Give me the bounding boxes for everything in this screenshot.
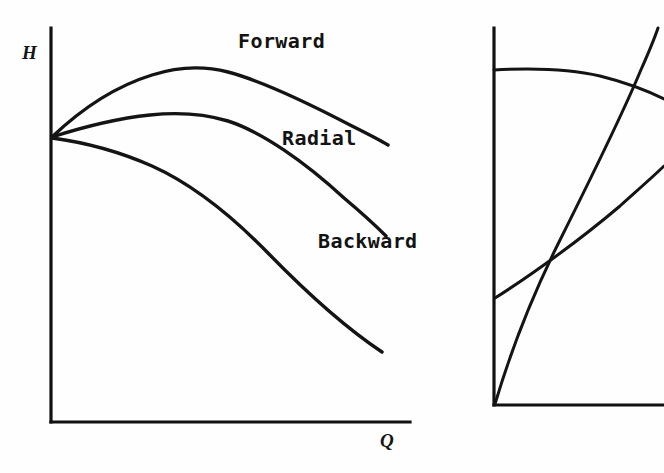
right-panel bbox=[494, 28, 664, 405]
curve-label-radial: Radial bbox=[282, 126, 357, 150]
curve-label-forward: Forward bbox=[238, 29, 325, 53]
left-x-axis-label: Q bbox=[380, 430, 394, 451]
left-panel: H Q Forward Radial Backward bbox=[21, 28, 418, 451]
figure-svg: H Q Forward Radial Backward bbox=[0, 0, 664, 473]
figure-canvas: H Q Forward Radial Backward bbox=[0, 0, 664, 473]
right-curve-rising bbox=[495, 28, 658, 404]
curve-label-backward: Backward bbox=[318, 229, 418, 253]
left-y-axis-label: H bbox=[21, 42, 38, 63]
right-curve-straight bbox=[495, 166, 664, 298]
